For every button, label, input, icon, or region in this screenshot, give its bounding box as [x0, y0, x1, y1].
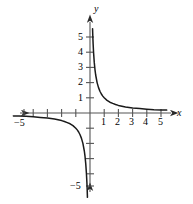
y-tick-label-1: 1: [78, 93, 83, 103]
y-tick-label-neg5: −5: [70, 181, 81, 191]
x-axis-label: x: [177, 108, 181, 118]
coordinate-plane: [0, 0, 193, 204]
y-tick-label-4: 4: [78, 47, 83, 57]
y-tick-label-5: 5: [78, 32, 83, 42]
y-axis-label: y: [94, 4, 98, 14]
x-tick-label-1: 1: [101, 117, 106, 127]
x-tick-label-2: 2: [115, 117, 120, 127]
curve-branch-quadrant-1: [93, 29, 167, 110]
x-tick-label-4: 4: [143, 117, 148, 127]
graph-figure: y x 5 4 3 2 1 −5 1 2 3 4 5 −5: [0, 0, 193, 204]
y-tick-label-3: 3: [78, 62, 83, 72]
y-tick-label-2: 2: [78, 77, 83, 87]
x-tick-label-3: 3: [129, 117, 134, 127]
x-tick-label-neg5: −5: [14, 118, 25, 128]
x-tick-label-5: 5: [158, 117, 163, 127]
